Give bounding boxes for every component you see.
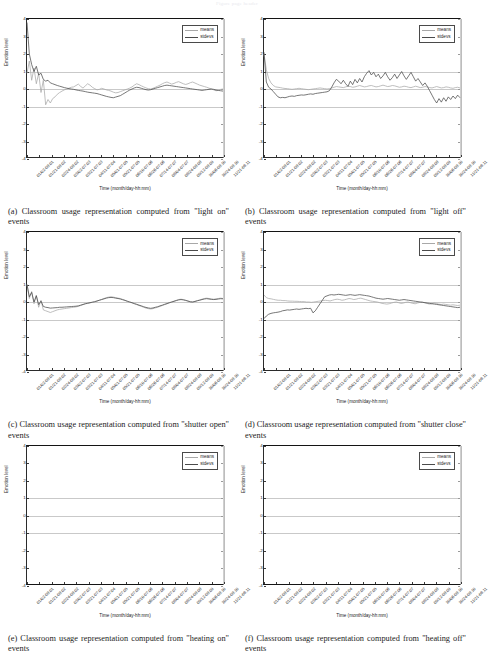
legend-swatch-means-icon	[422, 30, 435, 31]
x-axis-title: Time (month/day-hh:mm)	[263, 399, 461, 404]
legend-item-stdevs: stdevs	[185, 248, 214, 253]
plot-area-a: 43210-1-2-3-4meansstdevs	[26, 18, 224, 158]
legend-label: means	[200, 28, 214, 33]
y-axis-label: Emotion level	[241, 38, 246, 66]
legend-item-means: means	[422, 455, 451, 460]
y-tick-label: -1	[22, 318, 26, 322]
y-tick-label: 1	[23, 69, 25, 73]
series-means	[27, 285, 223, 313]
legend-item-stdevs: stdevs	[422, 462, 451, 467]
y-tick-label: 3	[260, 248, 262, 252]
y-tick-label: 3	[23, 248, 25, 252]
y-tick-label: 3	[260, 34, 262, 38]
plot-area-d: 43210-1-2-3-4meansstdevs	[263, 231, 461, 371]
y-tick-label: 2	[23, 479, 25, 483]
y-tick-label: 0	[260, 87, 262, 91]
x-axis-title: Time (month/day-hh:mm)	[26, 186, 224, 191]
y-tick-label: 4	[260, 17, 262, 21]
legend-label: stdevs	[200, 248, 213, 253]
legend-swatch-stdevs-icon	[185, 37, 198, 38]
y-tick-label: -2	[259, 549, 263, 553]
caption-a: (a) Classroom usage representation compu…	[0, 204, 237, 227]
y-tick-label: -3	[259, 566, 263, 570]
y-tick-label: -2	[259, 122, 263, 126]
series-stdevs	[264, 52, 460, 103]
figure-cell-a: Emotion level43210-1-2-3-4meansstdevs01/…	[0, 14, 237, 227]
figure-cell-b: Emotion level43210-1-2-3-4meansstdevs01/…	[237, 14, 474, 227]
legend-label: means	[437, 242, 451, 247]
y-tick-label: -3	[259, 139, 263, 143]
y-tick-label: -3	[22, 139, 26, 143]
legend-item-means: means	[185, 28, 214, 33]
y-tick-label: -1	[22, 531, 26, 535]
y-tick-label: 4	[260, 230, 262, 234]
legend-item-stdevs: stdevs	[185, 35, 214, 40]
y-tick-label: -2	[22, 335, 26, 339]
figure-cell-f: Emotion level43210-1-2-3-4meansstdevs01/…	[237, 441, 474, 654]
legend-swatch-means-icon	[422, 243, 435, 244]
y-tick-label: 0	[260, 300, 262, 304]
y-tick-label: 3	[23, 461, 25, 465]
x-tick-labels: 01/02-08:0101/21-08:0202/24-08:0203/02-0…	[26, 160, 224, 188]
caption-e: (e) Classroom usage representation compu…	[0, 631, 237, 654]
y-tick-label: -1	[22, 104, 26, 108]
y-tick-label: 0	[260, 514, 262, 518]
legend-swatch-means-icon	[185, 30, 198, 31]
legend-item-stdevs: stdevs	[185, 462, 214, 467]
y-tick-label: 4	[23, 17, 25, 21]
caption-f: (f) Classroom usage representation compu…	[237, 631, 474, 654]
y-tick-label: -1	[259, 531, 263, 535]
x-tick-labels: 01/02-08:0101/21-08:0202/24-08:0203/02-0…	[263, 160, 461, 188]
y-tick-label: 0	[23, 514, 25, 518]
y-tick-label: 1	[260, 283, 262, 287]
y-tick-label: 2	[260, 265, 262, 269]
series-means	[264, 54, 460, 90]
legend: meansstdevs	[419, 452, 455, 470]
y-tick-label: 2	[23, 52, 25, 56]
caption-c: (c) Classroom usage representation compu…	[0, 417, 237, 440]
plot-area-e: 43210-1-2-3-4meansstdevs	[26, 445, 224, 585]
y-tick-label: -2	[22, 549, 26, 553]
y-axis-label: Emotion level	[4, 252, 9, 280]
legend-label: stdevs	[437, 35, 450, 40]
plot-f: Emotion level43210-1-2-3-4meansstdevs01/…	[237, 441, 474, 631]
series-stdevs	[27, 285, 223, 309]
x-axis-title: Time (month/day-hh:mm)	[26, 399, 224, 404]
legend-item-means: means	[185, 455, 214, 460]
legend-label: stdevs	[437, 248, 450, 253]
legend-swatch-means-icon	[185, 457, 198, 458]
y-axis-label: Emotion level	[4, 465, 9, 493]
legend: meansstdevs	[182, 238, 218, 256]
series-means	[264, 295, 460, 306]
y-tick-label: 2	[260, 479, 262, 483]
y-axis-label: Emotion level	[241, 465, 246, 493]
caption-b: (b) Classroom usage representation compu…	[237, 204, 474, 227]
legend: meansstdevs	[419, 25, 455, 43]
y-tick-label: 2	[260, 52, 262, 56]
legend-item-stdevs: stdevs	[422, 35, 451, 40]
y-tick-label: 4	[23, 444, 25, 448]
plot-area-f: 43210-1-2-3-4meansstdevs	[263, 445, 461, 585]
plot-area-c: 43210-1-2-3-4meansstdevs	[26, 231, 224, 371]
series-stdevs	[264, 295, 460, 319]
x-tick-labels: 01/02-08:0101/21-08:0202/24-08:0203/02-0…	[263, 587, 461, 615]
page-header: Figure page header	[0, 1, 474, 6]
legend: meansstdevs	[419, 238, 455, 256]
legend-swatch-stdevs-icon	[422, 464, 435, 465]
legend-label: means	[437, 455, 451, 460]
legend: meansstdevs	[182, 452, 218, 470]
figure-cell-c: Emotion level43210-1-2-3-4meansstdevs01/…	[0, 227, 237, 440]
y-axis-label: Emotion level	[241, 252, 246, 280]
x-tick-labels: 01/02-08:0101/21-08:0202/24-08:0203/02-0…	[263, 373, 461, 401]
plot-c: Emotion level43210-1-2-3-4meansstdevs01/…	[0, 227, 237, 417]
y-tick-label: -2	[259, 335, 263, 339]
y-tick-label: 1	[23, 283, 25, 287]
legend-label: stdevs	[200, 35, 213, 40]
y-tick-label: -2	[22, 122, 26, 126]
legend-item-means: means	[185, 242, 214, 247]
x-axis-title: Time (month/day-hh:mm)	[263, 186, 461, 191]
y-tick-label: 0	[23, 87, 25, 91]
y-tick-label: 1	[260, 69, 262, 73]
legend-swatch-means-icon	[185, 243, 198, 244]
